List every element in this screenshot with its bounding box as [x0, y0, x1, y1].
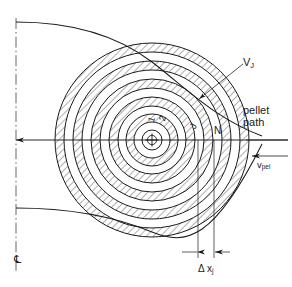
diagram-canvas: VJ pelletpath vpel N J 1 2 Δ xj ℄ [0, 0, 292, 287]
delta-x-label-subscript: j [212, 267, 214, 274]
delta-x-label: Δ xj [198, 263, 213, 275]
centerline-symbol: ℄ [14, 253, 21, 265]
pellet-path-line2: path [243, 116, 264, 128]
pellet-cloud-figure [0, 0, 292, 287]
v-j-label: VJ [243, 56, 254, 70]
v-j-label-subscript: J [250, 61, 254, 70]
pellet-path-line1: pellet [243, 104, 269, 116]
delta-x-label-text: Δ x [198, 263, 212, 274]
shell-n-label: N [214, 125, 221, 136]
pellet-path-label: pelletpath [243, 104, 269, 129]
v-pel-label-subscript: pel [262, 163, 271, 170]
v-pel-label: vpel [257, 160, 270, 171]
